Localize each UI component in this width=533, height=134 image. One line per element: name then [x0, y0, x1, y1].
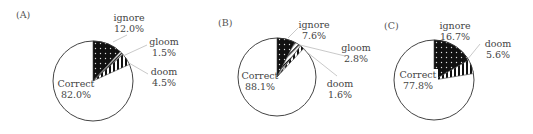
- value-correct: 77.8%: [398, 80, 438, 91]
- value-ignore: 16.7%: [435, 31, 475, 42]
- pie-chart-a: (A) ignore 12.0% gloom 1.5% doom 4.5% Co…: [0, 0, 180, 134]
- label-doom: doom: [480, 38, 516, 49]
- value-correct: 82.0%: [56, 89, 96, 100]
- label-doom: doom: [322, 78, 358, 89]
- label-doom: doom: [146, 66, 182, 77]
- pie-chart-b: (B) ignore 7.6% gloom 2.8% doom 1.6% Cor…: [180, 0, 360, 134]
- label-gloom: gloom: [146, 36, 182, 47]
- pie-chart-c: (C) ignore 16.7% doom 5.6% Correct 77.8%: [355, 0, 533, 134]
- value-ignore: 7.6%: [294, 30, 334, 41]
- value-ignore: 12.0%: [109, 23, 149, 34]
- label-ignore: ignore: [294, 19, 334, 30]
- label-ignore: ignore: [435, 20, 475, 31]
- label-correct: Correct: [56, 78, 96, 89]
- value-doom: 5.6%: [480, 49, 516, 60]
- value-correct: 88.1%: [240, 81, 280, 92]
- value-doom: 4.5%: [146, 77, 182, 88]
- label-ignore: ignore: [109, 12, 149, 23]
- label-correct: Correct: [240, 70, 280, 81]
- value-doom: 1.6%: [322, 89, 358, 100]
- label-correct: Correct: [398, 69, 438, 80]
- value-gloom: 1.5%: [146, 47, 182, 58]
